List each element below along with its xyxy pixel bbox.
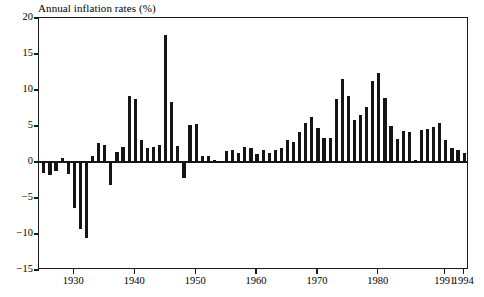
bar — [268, 153, 271, 162]
bar — [121, 147, 124, 162]
x-axis-tick-label: 1930 — [63, 275, 84, 287]
x-axis-tick-label: 1980 — [367, 275, 388, 287]
x-axis-labels: 19301940195019601970198019911994 — [38, 269, 468, 295]
bar — [316, 128, 319, 162]
bar — [456, 150, 459, 162]
y-axis-tick — [34, 233, 39, 234]
y-axis-tick-label: −5 — [22, 192, 33, 203]
x-axis-tick — [195, 269, 196, 274]
chart-title: Annual inflation rates (%) — [38, 2, 156, 15]
bar — [85, 162, 88, 238]
x-axis-tick-label: 1994 — [453, 275, 474, 287]
bar — [213, 160, 216, 162]
bar — [292, 142, 295, 162]
bar — [463, 153, 466, 162]
bar — [426, 129, 429, 162]
bar — [158, 145, 161, 162]
bar — [73, 162, 76, 208]
bar — [371, 81, 374, 162]
bar — [67, 162, 70, 174]
bar — [91, 156, 94, 162]
y-axis-tick-label: 15 — [23, 48, 34, 59]
bar — [164, 35, 167, 162]
x-axis-tick — [463, 269, 464, 274]
y-axis-tick — [34, 125, 39, 126]
bar — [140, 140, 143, 162]
bar — [420, 130, 423, 162]
bar — [444, 140, 447, 162]
x-axis-tick — [255, 269, 256, 274]
bar — [115, 152, 118, 162]
bar — [329, 138, 332, 162]
bar — [450, 148, 453, 162]
bar — [48, 162, 51, 175]
bar — [402, 131, 405, 162]
y-axis-tick — [34, 17, 39, 18]
bar — [389, 126, 392, 162]
bar — [335, 99, 338, 162]
bar — [432, 127, 435, 162]
bar — [438, 123, 441, 162]
x-axis-tick-label: 1950 — [185, 275, 206, 287]
bar — [359, 115, 362, 162]
bar — [262, 150, 265, 162]
bar — [341, 79, 344, 162]
bar — [408, 132, 411, 162]
bar — [310, 117, 313, 162]
bar — [103, 145, 106, 162]
bar — [396, 139, 399, 162]
y-axis-tick — [34, 161, 39, 162]
bar — [243, 147, 246, 162]
bar — [128, 96, 131, 162]
x-axis-tick — [73, 269, 74, 274]
bar — [54, 162, 57, 171]
bar — [298, 132, 301, 162]
y-axis-tick — [34, 53, 39, 54]
bar — [219, 161, 222, 162]
x-axis-tick — [134, 269, 135, 274]
bar — [280, 148, 283, 162]
bar — [255, 154, 258, 162]
bar — [249, 148, 252, 162]
bar — [109, 162, 112, 185]
bar — [152, 147, 155, 162]
bar — [377, 73, 380, 162]
bar — [176, 146, 179, 162]
bar — [231, 150, 234, 162]
bar — [42, 162, 45, 173]
inflation-bar-chart-figure: Annual inflation rates (%) 20151050−5−10… — [0, 0, 484, 297]
x-axis-tick — [377, 269, 378, 274]
bar — [146, 148, 149, 162]
bar — [170, 102, 173, 162]
x-axis-tick — [444, 269, 445, 274]
bar — [237, 153, 240, 162]
y-axis-tick-label: −10 — [17, 228, 33, 239]
y-axis-tick-label: 5 — [28, 120, 33, 131]
bar — [134, 99, 137, 162]
plot-frame — [38, 17, 468, 269]
bar — [347, 96, 350, 162]
bar — [365, 107, 368, 162]
bar — [304, 123, 307, 162]
plot-area — [39, 18, 467, 268]
y-axis-tick-label: 10 — [23, 84, 34, 95]
bar — [182, 162, 185, 178]
y-axis-tick-label: −15 — [17, 264, 33, 275]
bar — [322, 138, 325, 162]
y-axis-tick-label: 0 — [28, 156, 33, 167]
bar — [225, 151, 228, 162]
bar — [79, 162, 82, 229]
bar — [195, 124, 198, 162]
y-axis-tick — [34, 197, 39, 198]
x-axis-tick — [316, 269, 317, 274]
bar — [188, 125, 191, 162]
bar — [383, 98, 386, 162]
bar — [353, 120, 356, 162]
bar — [207, 156, 210, 162]
x-axis-tick-label: 1960 — [246, 275, 267, 287]
x-axis-tick-label: 1940 — [124, 275, 145, 287]
bar — [414, 160, 417, 162]
y-axis-tick-label: 20 — [23, 12, 34, 23]
x-axis-tick-label: 1970 — [306, 275, 327, 287]
y-axis-labels: 20151050−5−10−15 — [0, 17, 33, 269]
